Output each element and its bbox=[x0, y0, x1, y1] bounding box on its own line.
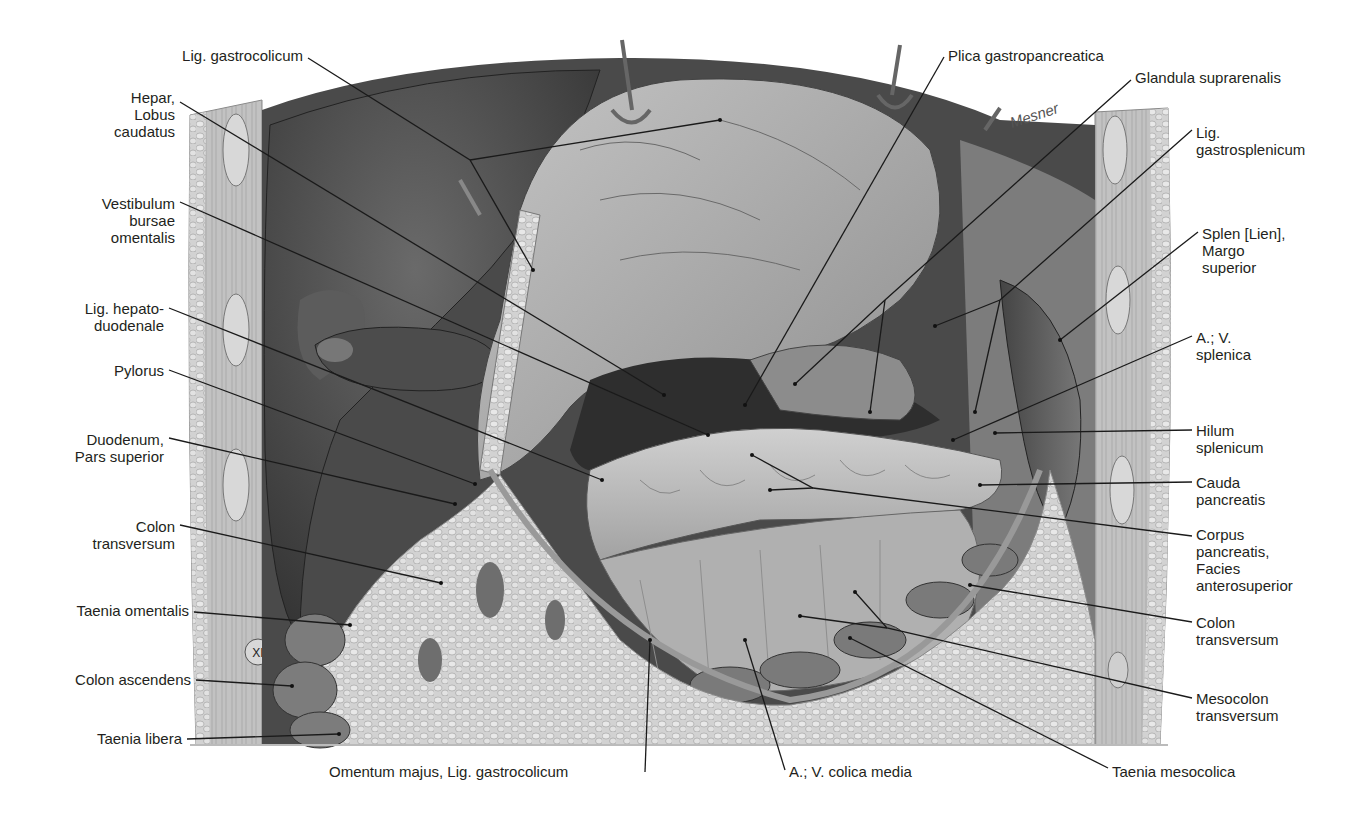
rib-marker-label: XI bbox=[252, 646, 263, 660]
label-pylorus: Pylorus bbox=[114, 362, 164, 379]
label-taenia-omentalis: Taenia omentalis bbox=[76, 602, 189, 619]
label-cauda-pancreatis: Cauda pancreatis bbox=[1196, 474, 1265, 508]
label-hepar-lobus-caudatus: Hepar, Lobus caudatus bbox=[114, 89, 175, 140]
label-vestibulum-bursae-omentalis: Vestibulum bursae omentalis bbox=[102, 195, 175, 246]
label-taenia-mesocolica: Taenia mesocolica bbox=[1112, 763, 1235, 780]
label-mesocolon-transversum: Mesocolon transversum bbox=[1196, 690, 1279, 724]
label-duodenum-pars-superior: Duodenum, Pars superior bbox=[75, 431, 164, 465]
label-omentum-majus: Omentum majus, Lig. gastrocolicum bbox=[329, 763, 568, 780]
label-corpus-pancreatis: Corpus pancreatis, Facies anterosuperior bbox=[1196, 526, 1293, 594]
label-taenia-libera: Taenia libera bbox=[97, 730, 182, 747]
label-hilum-splenicum: Hilum splenicum bbox=[1196, 422, 1264, 456]
label-plica-gastropancreatica: Plica gastropancreatica bbox=[948, 47, 1104, 64]
label-glandula-suprarenalis: Glandula suprarenalis bbox=[1135, 69, 1281, 86]
label-lig-gastrocolicum-top: Lig. gastrocolicum bbox=[182, 47, 303, 64]
label-lig-gastrosplenicum: Lig. gastrosplenicum bbox=[1196, 124, 1305, 158]
label-a-v-colica-media: A.; V. colica media bbox=[789, 763, 912, 780]
label-a-v-splenica: A.; V. splenica bbox=[1196, 329, 1251, 363]
illustration: XI Mesner bbox=[0, 0, 1367, 817]
label-colon-ascendens: Colon ascendens bbox=[75, 671, 191, 688]
label-colon-transversum-right: Colon transversum bbox=[1196, 614, 1279, 648]
label-splen-margo-superior: Splen [Lien], Margo superior bbox=[1202, 225, 1285, 276]
label-lig-hepatoduodenale: Lig. hepato- duodenale bbox=[85, 300, 164, 334]
label-colon-transversum-left: Colon transversum bbox=[92, 518, 175, 552]
anatomical-figure: XI Mesner bbox=[0, 0, 1367, 817]
